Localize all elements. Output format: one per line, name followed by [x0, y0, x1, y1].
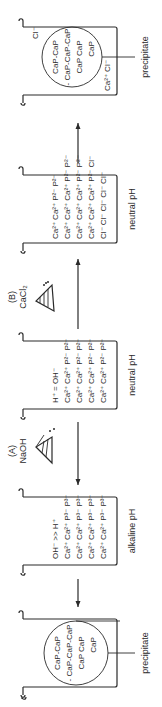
precip-row: CaP CaP [77, 636, 86, 669]
precip-row: CaP [89, 637, 98, 653]
beaker-neutral-1: H⁺ = OH⁻ Ca²⁺ Ca²⁺ P²⁻ P²⁻ Ca²⁺ Ca²⁺ P²⁻… [19, 333, 137, 420]
label-neutral-ph: neutral pH [127, 188, 137, 230]
ion-row: Ca²⁺ Ca²⁺ Ca²⁺ P²⁻ Cl⁻ [87, 156, 96, 239]
ion-row: Ca²⁺ Ca²⁺ Ca²⁺ P²⁻ P²⁻ [75, 155, 84, 239]
reagent-a-letter: (A) [7, 445, 17, 457]
reagent-b-letter: (B) [7, 291, 17, 303]
arrow-add-cacl2 [76, 259, 81, 329]
ion-corner-ca-cl: Ca²⁺ Cl⁻ [103, 60, 112, 91]
precip-row: CaP-CaP [51, 40, 60, 74]
label-precipitate: precipitate [140, 632, 150, 674]
precip-row: CaP [87, 41, 96, 57]
beaker-precipitate-neutral: Ca²⁺ Cl⁻ Cl⁻ CaP-CaP - CaP-CaP-CaP CaP C… [19, 19, 150, 106]
precip-row: - CaP-CaP-CaP [63, 29, 72, 86]
ion-row: Ca²⁺ Ca²⁺ Ca²⁺ P²⁻ P²⁻ [63, 155, 72, 239]
beaker-neutral-2: Ca²⁺ Ca²⁺ P²⁻ P²⁻ Ca²⁺ Ca²⁺ Ca²⁺ P²⁻ P²⁻… [19, 155, 137, 253]
ion-row: Ca²⁺ Ca²⁺ P³⁻ P³⁻ [63, 495, 72, 559]
reagent-a-name: NaOH [18, 438, 28, 463]
ion-row: Ca²⁺ Ca²⁺ P³⁻ P³⁻ [87, 495, 96, 559]
diagram: CaP-CaP - CaP-CaP-CaP CaP CaP CaP precip… [0, 0, 162, 707]
ion-row: Cl⁻ Cl⁻ Cl⁻ Cl⁻ Cl⁻ [99, 172, 108, 239]
beaker-alkaline: OH⁻ >> H⁺ Ca²⁺ Ca²⁺ P³⁻ P³⁻ Ca²⁺ Ca²⁺ P³… [19, 489, 137, 576]
arrow-add-naoh [76, 422, 81, 485]
label-precipitate: precipitate [140, 36, 150, 78]
ion-row: Ca²⁺ Ca²⁺ P²⁻ P²⁻ [75, 339, 84, 403]
ion-corner-cl: Cl⁻ [31, 27, 40, 39]
arrow-reversible [76, 579, 81, 607]
precip-row: CaP-CaP [53, 636, 62, 670]
flask-naoh-icon [36, 428, 55, 463]
condition-text: H⁺ = OH⁻ [51, 368, 60, 403]
flask-cacl2-icon [36, 281, 54, 311]
ion-row: Ca²⁺ Ca²⁺ P²⁻ P²⁻ [63, 339, 72, 403]
precip-row: CaP CaP [75, 40, 84, 73]
beaker-precipitate-alkaline: CaP-CaP - CaP-CaP-CaP CaP CaP CaP precip… [19, 611, 150, 700]
ion-row: Ca²⁺ Ca²⁺ P²⁻ P²⁻ [99, 339, 108, 403]
ion-row: Ca²⁺ Ca²⁺ P³⁻ P³⁻ [75, 495, 84, 559]
condition-text: OH⁻ >> H⁺ [51, 519, 60, 559]
label-alkaline-ph: alkaline pH [127, 509, 137, 554]
ion-row: Ca²⁺ Ca²⁺ P²⁻ P²⁻ [87, 339, 96, 403]
reagent-b-name: CaCl₂ [18, 285, 28, 309]
ion-row: Ca²⁺ Ca²⁺ P³⁻ P³⁻ [99, 495, 108, 559]
label-neutral-ph: neutral pH [127, 354, 137, 396]
precip-row: - CaP-CaP-CaP [65, 625, 74, 682]
ion-row: Ca²⁺ Ca²⁺ P²⁻ P²⁻ [51, 175, 60, 239]
